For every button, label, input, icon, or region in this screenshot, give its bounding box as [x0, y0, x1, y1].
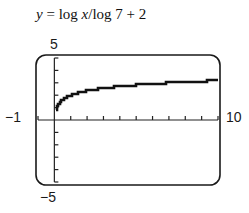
axes — [38, 58, 218, 182]
graph-screen — [0, 0, 249, 213]
function-curve — [56, 80, 218, 110]
